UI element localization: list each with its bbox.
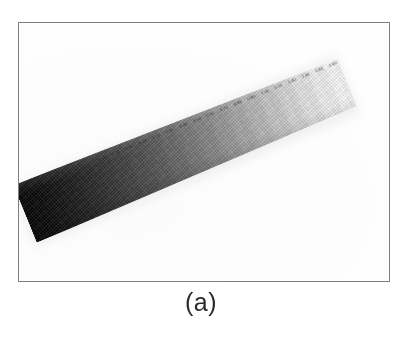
figure-page: 0.05 0.10 0.15 0.20 0.25 0.30 0.40 0.50 …	[0, 0, 402, 337]
strip-label: 0.50	[192, 115, 202, 123]
strip-step-bands	[18, 54, 359, 243]
photo-area: 0.05 0.10 0.15 0.20 0.25 0.30 0.40 0.50 …	[19, 23, 389, 281]
strip-label: 1.60	[301, 71, 311, 79]
strip-label: 1.80	[314, 65, 324, 73]
strip-label: 0.05	[97, 154, 107, 162]
strip-shadow	[18, 54, 361, 246]
strip-halftone-texture	[18, 54, 359, 243]
strip-label: 0.25	[151, 132, 161, 140]
strip-tick-labels: 0.05 0.10 0.15 0.20 0.25 0.30 0.40 0.50 …	[18, 54, 359, 243]
figure-frame: 0.05 0.10 0.15 0.20 0.25 0.30 0.40 0.50 …	[18, 22, 390, 282]
strip-label: 2.00	[328, 60, 338, 68]
strip-label: 1.00	[260, 87, 270, 95]
strip-label: 1.40	[287, 76, 297, 84]
strip-label: 0.20	[138, 137, 148, 145]
grayscale-strip-wrapper: 0.05 0.10 0.15 0.20 0.25 0.30 0.40 0.50 …	[19, 23, 390, 282]
strip-label: 0.15	[124, 143, 134, 151]
strip-label-row: 0.05 0.10 0.15 0.20 0.25 0.30 0.40 0.50 …	[96, 57, 339, 165]
strip-label: 0.80	[233, 98, 243, 106]
figure-caption: (a)	[0, 288, 402, 317]
strip-label: 0.40	[178, 121, 188, 129]
strip-label: 0.30	[165, 126, 175, 134]
grayscale-gradient-strip	[18, 54, 359, 243]
strip-label: 0.70	[219, 104, 229, 112]
strip-label: 0.90	[246, 93, 256, 101]
strip-label: 0.10	[110, 148, 120, 156]
strip-label: 1.20	[273, 82, 283, 90]
strip-label: 0.60	[205, 110, 215, 118]
strip-vignette	[18, 54, 359, 243]
